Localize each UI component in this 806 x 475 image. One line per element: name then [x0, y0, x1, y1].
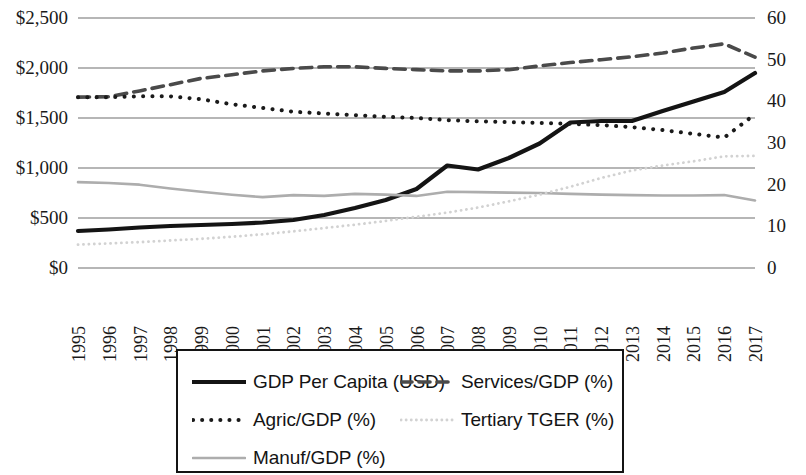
x-axis-tick-label: 2013	[623, 326, 643, 362]
y-axis-right-tick-label: 0	[767, 257, 777, 278]
dashed-gray-line-icon	[400, 375, 454, 389]
data-series-group	[78, 44, 755, 245]
legend-item[interactable]: Agric/GDP (%)	[192, 401, 400, 439]
x-axis-tick-label: 2014	[654, 326, 674, 362]
legend-label: Services/GDP (%)	[461, 371, 613, 393]
y-axis-right-tick-label: 10	[767, 215, 786, 236]
y-axis-right-tick-label: 40	[767, 90, 786, 111]
legend-label: Manuf/GDP (%)	[253, 447, 385, 469]
solid-black-line-icon	[192, 375, 246, 389]
series-line-manuf-gdp	[78, 182, 755, 200]
chart-legend: GDP Per Capita (USD)Services/GDP (%)Agri…	[176, 349, 624, 473]
legend-item[interactable]: Tertiary TGER (%)	[400, 401, 608, 439]
chart-figure: $0$500$1,000$1,500$2,000$2,500 010203040…	[0, 0, 806, 475]
legend-label: Agric/GDP (%)	[253, 409, 376, 431]
gridlines	[78, 18, 755, 268]
series-line-services-gdp	[78, 44, 755, 97]
dotted-lightgray-line-icon	[400, 413, 454, 427]
series-line-tertiary-tger	[78, 156, 755, 245]
y-axis-right-tick-label: 30	[767, 132, 786, 153]
x-axis-tick-label: 2016	[715, 326, 735, 362]
y-axis-left-tick-label: $0	[49, 257, 68, 278]
y-axis-right-tick-label: 60	[767, 7, 786, 28]
y-axis-left-labels: $0$500$1,000$1,500$2,000$2,500	[16, 7, 68, 278]
y-axis-left-tick-label: $1,000	[16, 157, 68, 178]
x-axis-tick-label: 1997	[131, 326, 151, 362]
series-line-agric-gdp	[78, 96, 755, 137]
x-axis-tick-label: 2015	[684, 326, 704, 362]
y-axis-left-tick-label: $2,000	[16, 57, 68, 78]
x-axis-tick-label: 1996	[100, 326, 120, 362]
y-axis-right-labels: 0102030405060	[767, 7, 786, 278]
solid-lightgray-line-icon	[192, 451, 246, 465]
legend-item[interactable]: GDP Per Capita (USD)	[192, 363, 400, 401]
y-axis-left-tick-label: $2,500	[16, 7, 68, 28]
legend-item[interactable]: Manuf/GDP (%)	[192, 439, 608, 475]
x-axis-tick-label: 1995	[69, 326, 89, 362]
y-axis-left-tick-label: $1,500	[16, 107, 68, 128]
legend-item[interactable]: Services/GDP (%)	[400, 363, 608, 401]
y-axis-right-tick-label: 20	[767, 174, 786, 195]
dotted-black-line-icon	[192, 413, 246, 427]
x-axis-tick-label: 2017	[746, 326, 766, 362]
legend-items-grid: GDP Per Capita (USD)Services/GDP (%)Agri…	[192, 363, 608, 475]
y-axis-right-tick-label: 50	[767, 49, 786, 70]
legend-label: Tertiary TGER (%)	[461, 409, 614, 431]
y-axis-left-tick-label: $500	[30, 207, 68, 228]
